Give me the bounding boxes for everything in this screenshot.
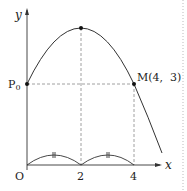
p0-label: P0 bbox=[8, 78, 21, 92]
arc-right bbox=[81, 155, 134, 165]
x-tick-2: 2 bbox=[77, 170, 84, 183]
m-label: M(4, 3) bbox=[137, 71, 181, 84]
origin-label: O bbox=[15, 170, 24, 183]
parabola-diagram: y x O 2 4 P0 M(4, 3) bbox=[0, 0, 187, 191]
x-axis-label: x bbox=[165, 158, 172, 172]
x-axis-arrow-icon bbox=[155, 163, 162, 167]
x-tick-4: 4 bbox=[130, 170, 137, 183]
point-m bbox=[132, 82, 136, 86]
y-axis-label: y bbox=[14, 8, 22, 22]
point-vertex bbox=[79, 26, 83, 30]
point-p0 bbox=[25, 82, 29, 86]
arc-left bbox=[27, 155, 81, 165]
y-axis-arrow-icon bbox=[25, 8, 29, 15]
parabola-curve bbox=[27, 28, 162, 153]
